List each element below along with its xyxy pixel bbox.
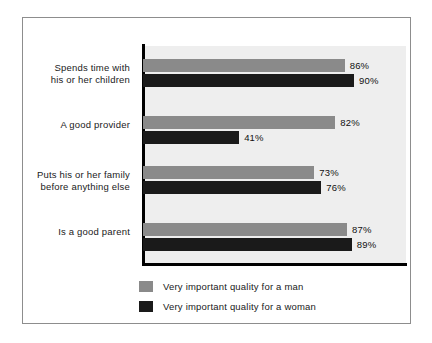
bar-man-1 [143, 116, 335, 129]
x-axis-line [142, 263, 407, 266]
bar-value-woman-1: 41% [244, 131, 264, 144]
bar-woman-1 [143, 131, 239, 144]
bar-value-man-2: 73% [319, 166, 339, 179]
legend-item-woman: Very important quality for a woman [139, 296, 316, 316]
legend-swatch-man-icon [139, 281, 153, 292]
category-label-1: A good provider [0, 119, 130, 131]
category-label-0: Spends time with his or her children [0, 62, 130, 86]
legend: Very important quality for a man Very im… [139, 276, 316, 316]
bar-man-2 [143, 166, 314, 179]
category-label-3: Is a good parent [0, 226, 130, 238]
legend-label-woman: Very important quality for a woman [163, 301, 316, 312]
bar-woman-0 [143, 74, 354, 87]
bar-value-man-1: 82% [340, 116, 360, 129]
legend-item-man: Very important quality for a man [139, 276, 316, 296]
bar-woman-2 [143, 181, 321, 194]
bar-value-woman-3: 89% [357, 238, 377, 251]
bar-value-man-3: 87% [352, 223, 372, 236]
legend-label-man: Very important quality for a man [163, 281, 304, 292]
bar-woman-3 [143, 238, 352, 251]
bar-value-woman-2: 76% [326, 181, 346, 194]
bar-man-0 [143, 59, 345, 72]
bar-man-3 [143, 223, 347, 236]
bar-value-woman-0: 90% [359, 74, 379, 87]
chart-figure: Spends time with his or her children A g… [22, 17, 411, 324]
legend-swatch-woman-icon [139, 301, 153, 312]
bar-value-man-0: 86% [350, 59, 370, 72]
category-label-2: Puts his or her family before anything e… [0, 169, 130, 193]
